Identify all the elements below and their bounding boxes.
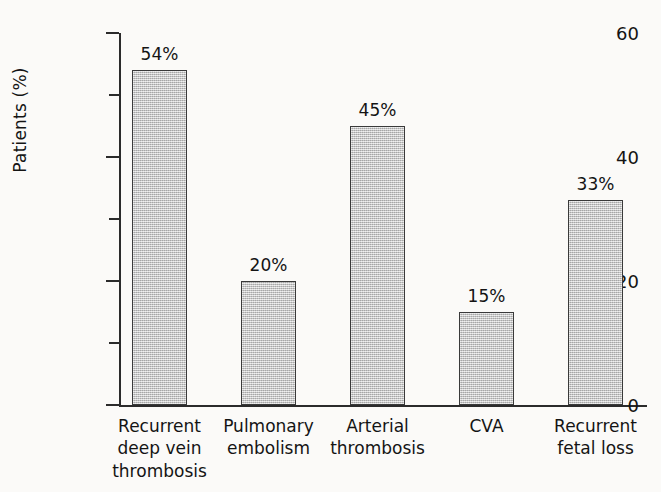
x-axis-label-line: Arterial bbox=[323, 415, 432, 437]
x-axis-category-label: CVA bbox=[432, 415, 541, 437]
x-axis-label-line: deep vein bbox=[105, 437, 214, 459]
x-axis-label-line: thrombosis bbox=[105, 460, 214, 482]
y-axis-tick-label: 60 bbox=[569, 23, 639, 44]
x-axis-label-line: CVA bbox=[432, 415, 541, 437]
x-axis-category-label: Arterialthrombosis bbox=[323, 415, 432, 460]
x-axis-category-label: Recurrentdeep veinthrombosis bbox=[105, 415, 214, 482]
x-axis-label-line: Recurrent bbox=[105, 415, 214, 437]
bar bbox=[132, 70, 187, 405]
bar-value-label: 33% bbox=[548, 174, 643, 194]
bar-value-label: 45% bbox=[330, 100, 425, 120]
y-axis-major-tick bbox=[106, 280, 119, 282]
x-axis-category-label: Pulmonaryembolism bbox=[214, 415, 323, 460]
x-axis-label-line: embolism bbox=[214, 437, 323, 459]
bar bbox=[568, 200, 623, 405]
plot-area: 0204060 54%20%45%15%33% bbox=[119, 33, 661, 405]
x-axis-category-label: Recurrentfetal loss bbox=[541, 415, 650, 460]
y-axis-line bbox=[119, 33, 121, 405]
x-axis-label-line: Recurrent bbox=[541, 415, 650, 437]
y-axis-title: Patients (%) bbox=[10, 30, 40, 210]
y-axis-major-tick bbox=[106, 156, 119, 158]
y-axis-minor-tick bbox=[109, 342, 119, 344]
bar bbox=[459, 312, 514, 405]
bar bbox=[241, 281, 296, 405]
x-axis-line bbox=[119, 405, 647, 407]
y-axis-major-tick bbox=[106, 32, 119, 34]
x-axis-label-line: fetal loss bbox=[541, 437, 650, 459]
bar-value-label: 20% bbox=[221, 255, 316, 275]
bar-chart-figure: Patients (%) 0204060 54%20%45%15%33% Rec… bbox=[0, 0, 661, 492]
y-axis-tick-label: 40 bbox=[569, 147, 639, 168]
bar-value-label: 15% bbox=[439, 286, 534, 306]
bar bbox=[350, 126, 405, 405]
y-axis-minor-tick bbox=[109, 94, 119, 96]
y-axis-major-tick bbox=[106, 404, 119, 406]
bar-value-label: 54% bbox=[112, 44, 207, 64]
x-axis-label-line: Pulmonary bbox=[214, 415, 323, 437]
y-axis-minor-tick bbox=[109, 218, 119, 220]
x-axis-label-line: thrombosis bbox=[323, 437, 432, 459]
